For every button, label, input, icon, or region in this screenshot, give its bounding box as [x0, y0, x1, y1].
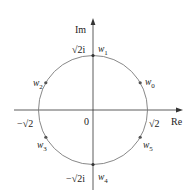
label-w4: w4 [98, 172, 108, 185]
label-neg-sqrt2: −√2 [17, 118, 33, 129]
imaginary-axis-label: Im [75, 24, 86, 35]
point-w5 [139, 136, 142, 139]
point-w2 [44, 81, 47, 84]
label-neg-sqrt2i: −√2i [66, 173, 85, 184]
label-sqrt2i: √2i [72, 44, 85, 55]
label-w3: w3 [37, 140, 47, 153]
label-w2: w2 [33, 78, 43, 91]
point-w4 [91, 163, 94, 166]
point-w0 [139, 81, 142, 84]
real-axis-arrow-icon [176, 108, 183, 113]
real-axis-label: Re [171, 116, 183, 127]
label-w5: w5 [143, 140, 153, 153]
origin-label: 0 [84, 116, 89, 127]
label-sqrt2: √2 [149, 118, 160, 129]
label-w0: w0 [145, 77, 155, 90]
point-w3 [44, 136, 47, 139]
imaginary-axis-arrow-icon [91, 18, 96, 25]
complex-plane-diagram: Im Re 0 √2i −√2i √2 −√2 w0 w1 w2 w3 w4 w… [0, 0, 191, 194]
point-w1 [91, 54, 94, 57]
label-w1: w1 [98, 44, 108, 57]
